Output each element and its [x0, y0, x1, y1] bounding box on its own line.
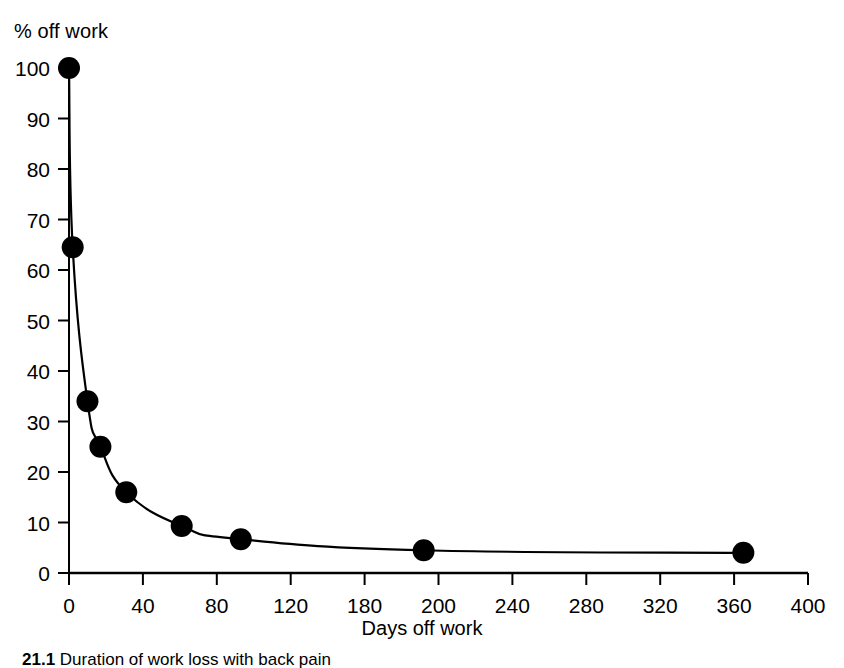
y-axis-tick-label: 100: [0, 58, 50, 79]
y-axis-tick-label: 30: [0, 411, 50, 432]
x-axis-tick-label: 400: [790, 595, 825, 616]
y-axis-tick-label: 40: [0, 361, 50, 382]
data-point-marker: [732, 542, 754, 564]
x-axis-tick-label: 0: [63, 595, 75, 616]
y-axis-tick-label: 60: [0, 260, 50, 281]
figure-caption: 21.1 Duration of work loss with back pai…: [22, 651, 331, 668]
y-axis-ticks: [58, 68, 69, 573]
data-point-marker: [58, 57, 80, 79]
x-axis-tick-label: 320: [643, 595, 678, 616]
series-markers: [58, 57, 754, 564]
y-axis-tick-label: 70: [0, 209, 50, 230]
y-axis-tick-label: 80: [0, 159, 50, 180]
x-axis-ticks: [69, 573, 808, 585]
x-axis-tick-label: 40: [131, 595, 154, 616]
x-axis-tick-label: 180: [347, 595, 382, 616]
series-line: [69, 68, 743, 553]
x-axis-tick-label: 120: [273, 595, 308, 616]
x-axis-tick-label: 240: [495, 595, 530, 616]
data-point-marker: [62, 236, 84, 258]
figure-duration-of-work-loss: % off work 0102030405060708090100 040801…: [0, 0, 844, 668]
figure-caption-number: 21.1: [22, 650, 55, 668]
x-axis-title: Days off work: [362, 617, 483, 640]
x-axis-tick-label: 80: [205, 595, 228, 616]
data-point-marker: [89, 436, 111, 458]
data-point-marker: [230, 528, 252, 550]
x-axis-tick-label: 360: [717, 595, 752, 616]
y-axis-tick-label: 20: [0, 462, 50, 483]
chart-svg: [0, 0, 844, 668]
data-point-marker: [171, 515, 193, 537]
plot-area: [0, 0, 844, 668]
data-point-marker: [413, 539, 435, 561]
axis-lines: [69, 68, 808, 573]
data-point-marker: [115, 481, 137, 503]
y-axis-tick-label: 50: [0, 310, 50, 331]
data-point-marker: [76, 390, 98, 412]
x-axis-tick-label: 200: [421, 595, 456, 616]
y-axis-tick-label: 0: [0, 563, 50, 584]
y-axis-tick-label: 90: [0, 108, 50, 129]
figure-caption-text: Duration of work loss with back pain: [60, 650, 331, 668]
x-axis-tick-label: 280: [569, 595, 604, 616]
y-axis-tick-label: 10: [0, 512, 50, 533]
